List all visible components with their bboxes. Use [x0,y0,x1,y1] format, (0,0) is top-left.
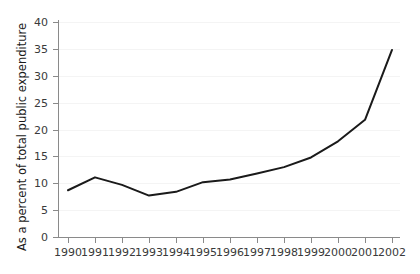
data-series-svg [0,0,420,274]
line-chart-figure: As a percent of total public expenditure… [0,0,420,274]
series-line-expenditure [68,50,392,196]
